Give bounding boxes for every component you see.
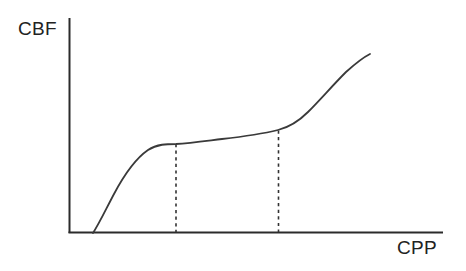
autoregulation-curve <box>93 54 370 233</box>
y-axis-label: CBF <box>18 19 57 38</box>
chart-plot-area <box>0 0 466 271</box>
x-axis-label: CPP <box>397 238 437 257</box>
autoregulation-chart-figure: CBF CPP <box>0 0 466 271</box>
